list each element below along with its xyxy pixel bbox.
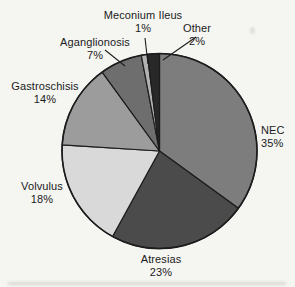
slice-percent: 2% bbox=[171, 35, 223, 48]
slice-percent: 35% bbox=[261, 137, 295, 150]
pie-slices bbox=[62, 54, 257, 249]
slice-percent: 14% bbox=[1, 93, 89, 106]
label-other: Other 2% bbox=[171, 22, 223, 48]
slice-name: Aganglionosis bbox=[48, 36, 142, 49]
slice-percent: 18% bbox=[3, 193, 81, 206]
label-atresias: Atresias 23% bbox=[111, 253, 211, 279]
label-volvulus: Volvulus 18% bbox=[3, 180, 81, 206]
label-nec: NEC 35% bbox=[261, 124, 295, 150]
slice-name: Meconium Ileus bbox=[96, 9, 190, 22]
slice-name: Atresias bbox=[111, 253, 211, 266]
pie-chart: Meconium Ileus 1% Other 2% Aganglionosis… bbox=[0, 0, 295, 287]
slice-percent: 7% bbox=[48, 49, 142, 62]
slice-name: Other bbox=[171, 22, 223, 35]
label-aganglionosis: Aganglionosis 7% bbox=[48, 36, 142, 62]
slice-name: Volvulus bbox=[3, 180, 81, 193]
slice-name: NEC bbox=[261, 124, 295, 137]
label-gastroschisis: Gastroschisis 14% bbox=[1, 80, 89, 106]
slice-percent: 23% bbox=[111, 266, 211, 279]
pie-svg bbox=[0, 0, 295, 287]
slice-name: Gastroschisis bbox=[1, 80, 89, 93]
